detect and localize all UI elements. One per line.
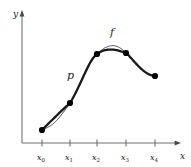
curve-f (42, 46, 155, 130)
y-axis-label: y (12, 9, 19, 19)
x-tick-label-4-sub: 4 (155, 157, 159, 163)
x-tick-label-4: x4 (150, 153, 159, 163)
x-axis (22, 141, 181, 146)
x-tick-label-2-sub: 2 (97, 157, 101, 163)
node-marker-1 (67, 100, 73, 106)
x-axis-label: x (180, 151, 185, 161)
plot-canvas: y x x0 x1 x2 x3 x4 f p (0, 0, 191, 167)
x-tick-label-0: x0 (37, 153, 46, 163)
x-tick-label-3-sub: 3 (126, 157, 130, 163)
x-tick-label-3: x3 (121, 153, 130, 163)
curve-f-label: f (109, 26, 116, 39)
x-tick-label-1: x1 (65, 153, 73, 163)
node-marker-3 (123, 50, 129, 56)
x-tick-label-1-sub: 1 (70, 157, 74, 163)
x-tick-labels: x0 x1 x2 x3 x4 (37, 153, 159, 163)
x-tick-label-2: x2 (92, 153, 100, 163)
y-axis-arrowhead (20, 10, 25, 16)
node-marker-0 (39, 127, 45, 133)
x-tick-label-0-sub: 0 (42, 157, 46, 163)
curve-p-label: p (67, 69, 74, 82)
y-axis (20, 10, 25, 143)
interpolation-figure: y x x0 x1 x2 x3 x4 f p (0, 0, 191, 167)
x-axis-arrowhead (175, 141, 181, 146)
node-marker-4 (152, 73, 158, 79)
node-marker-2 (94, 51, 100, 57)
